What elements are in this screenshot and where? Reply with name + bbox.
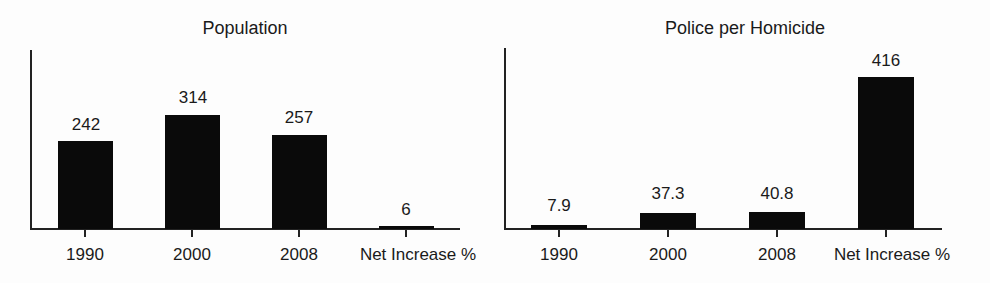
- y-axis: [504, 48, 506, 230]
- x-tick: [776, 229, 778, 237]
- police-per-homicide-chart: Police per Homicide 7.9 37.3 40.8 416 19…: [0, 0, 990, 283]
- x-tick: [558, 229, 560, 237]
- x-tick: [667, 229, 669, 237]
- value-label: 40.8: [737, 184, 817, 204]
- bar-net-increase: [858, 77, 914, 229]
- chart-title: Police per Homicide: [625, 18, 865, 39]
- x-tick: [885, 229, 887, 237]
- value-label: 416: [846, 51, 926, 71]
- bar-2008: [749, 212, 805, 229]
- value-label: 37.3: [628, 184, 708, 204]
- bar-2000: [640, 213, 696, 229]
- value-label: 7.9: [519, 196, 599, 216]
- x-label: Net Increase %: [822, 245, 962, 265]
